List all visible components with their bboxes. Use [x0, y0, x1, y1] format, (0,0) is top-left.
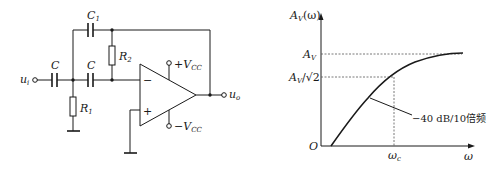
x-axis-label: ω — [464, 150, 473, 163]
input-terminal-icon — [33, 78, 38, 83]
circuit-diagram: ui C R1 C1 C — [20, 9, 240, 153]
opamp-inverting-sign: − — [143, 74, 152, 87]
input-label: ui — [20, 73, 29, 87]
output-terminal-icon — [222, 93, 227, 98]
capacitor-c1-label: C1 — [87, 9, 100, 23]
response-curve — [331, 53, 463, 146]
capacitor-c-left-icon — [52, 73, 57, 87]
resistor-r1-icon — [70, 97, 76, 116]
capacitor-c-mid-label: C — [87, 59, 96, 72]
x-axis-arrow-icon — [468, 144, 475, 149]
resistor-r2-label: R2 — [118, 50, 132, 64]
slope-annotation: −40 dB/10倍频 — [412, 112, 486, 124]
capacitor-c1-icon — [88, 23, 93, 37]
figure-canvas: ui C R1 C1 C — [0, 0, 494, 171]
origin-label: O — [309, 140, 318, 153]
annotation-leader — [370, 98, 412, 115]
wc-label: ωc — [388, 149, 401, 163]
capacitor-c-left-label: C — [51, 59, 60, 72]
vcc-positive-label: +VCC — [174, 58, 203, 72]
level-av-label: AV — [302, 48, 317, 62]
frequency-response-graph: AV(ω) O ω AV AV/√2 ωc −40 dB/10倍频 — [288, 9, 486, 163]
vcc-positive-terminal-icon — [167, 61, 172, 66]
vcc-negative-terminal-icon — [167, 124, 172, 129]
level-av-sqrt2-label: AV/√2 — [288, 71, 320, 85]
y-axis-label: AV(ω) — [289, 9, 321, 23]
resistor-r2-icon — [109, 46, 115, 65]
capacitor-c-mid-icon — [88, 73, 93, 87]
opamp-noninverting-sign: + — [143, 105, 152, 118]
resistor-r1-label: R1 — [79, 102, 93, 116]
output-label: uo — [229, 88, 240, 102]
vcc-negative-label: −VCC — [174, 120, 203, 134]
